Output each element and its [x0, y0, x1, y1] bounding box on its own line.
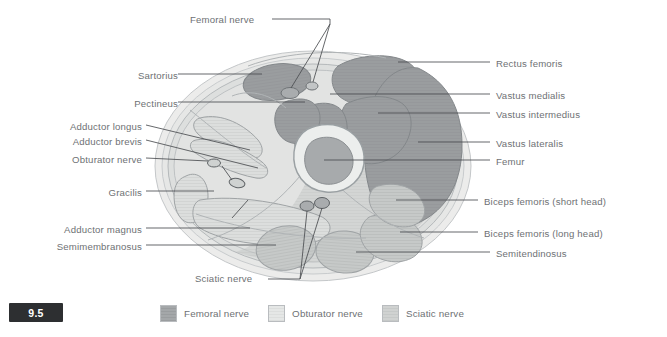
femoral-nerve-dot-2	[306, 82, 318, 90]
label-vastus-medialis-text: Vastus medialis	[496, 90, 565, 101]
label-biceps-femoris-long-head-text: Biceps femoris (long head)	[484, 228, 603, 239]
legend-item-sciatic-nerve: Sciatic nerve	[382, 305, 464, 322]
sciatic-nerve-dot-1	[300, 201, 314, 211]
legend-label-obturator-nerve: Obturator nerve	[292, 308, 363, 319]
label-sciatic-nerve: Sciatic nerve	[195, 273, 252, 284]
label-obturator-nerve-text: Obturator nerve	[72, 154, 142, 165]
legend-swatch-sciatic-nerve	[382, 305, 399, 322]
label-femur-text: Femur	[496, 156, 525, 167]
label-vastus-lateralis: Vastus lateralis	[496, 138, 563, 149]
label-pectineus-text: Pectineus	[134, 98, 178, 109]
label-semitendinosus: Semitendinosus	[496, 248, 567, 259]
figure-number-badge: 9.5	[9, 303, 63, 322]
label-biceps-femoris-short-head-text: Biceps femoris (short head)	[484, 196, 606, 207]
label-semimembranosus: Semimembranosus	[6, 241, 142, 252]
femoral-nerve-dot-1	[281, 88, 299, 99]
label-obturator-nerve: Obturator nerve	[10, 154, 142, 165]
femur-marrow	[305, 137, 353, 184]
sciatic-nerve-dot-2	[315, 198, 330, 209]
obturator-nerve-dot-1	[208, 159, 221, 167]
label-adductor-magnus-text: Adductor magnus	[64, 224, 142, 235]
femur-bone-group	[294, 125, 364, 193]
label-pectineus: Pectineus	[40, 98, 178, 109]
label-adductor-magnus: Adductor magnus	[6, 224, 142, 235]
label-femoral-nerve: Femoral nerve	[190, 14, 254, 25]
legend-item-obturator-nerve: Obturator nerve	[268, 305, 363, 322]
label-vastus-intermedius-text: Vastus intermedius	[496, 109, 580, 120]
label-vastus-lateralis-text: Vastus lateralis	[496, 138, 563, 149]
legend-swatch-obturator-nerve	[268, 305, 285, 322]
label-femoral-nerve-text: Femoral nerve	[190, 14, 254, 25]
label-semimembranosus-text: Semimembranosus	[57, 241, 142, 252]
legend-item-femoral-nerve: Femoral nerve	[160, 305, 249, 322]
legend-swatch-femoral-nerve	[160, 305, 177, 322]
figure-root: Sartorius Pectineus Adductor longus Addu…	[0, 0, 667, 337]
label-biceps-femoris-long-head: Biceps femoris (long head)	[484, 228, 603, 239]
legend-label-sciatic-nerve: Sciatic nerve	[406, 308, 464, 319]
label-vastus-intermedius: Vastus intermedius	[496, 109, 580, 120]
label-rectus-femoris: Rectus femoris	[496, 58, 563, 69]
legend-label-femoral-nerve: Femoral nerve	[184, 308, 249, 319]
label-adductor-brevis-text: Adductor brevis	[73, 136, 142, 147]
figure-number-text: 9.5	[28, 307, 44, 319]
leader-femoral-nerve-stem	[272, 19, 330, 24]
label-adductor-longus: Adductor longus	[10, 121, 142, 132]
label-sartorius-text: Sartorius	[138, 70, 178, 81]
label-sciatic-nerve-text: Sciatic nerve	[195, 273, 252, 284]
label-sartorius: Sartorius	[40, 70, 178, 81]
label-gracilis: Gracilis	[40, 187, 142, 198]
label-femur: Femur	[496, 156, 525, 167]
label-adductor-brevis: Adductor brevis	[10, 136, 142, 147]
legend: Femoral nerve Obturator nerve Sciatic ne…	[160, 303, 483, 323]
label-biceps-femoris-short-head: Biceps femoris (short head)	[484, 196, 606, 207]
label-vastus-medialis: Vastus medialis	[496, 90, 565, 101]
label-rectus-femoris-text: Rectus femoris	[496, 58, 563, 69]
label-semitendinosus-text: Semitendinosus	[496, 248, 567, 259]
label-gracilis-text: Gracilis	[109, 187, 142, 198]
label-adductor-longus-text: Adductor longus	[70, 121, 142, 132]
thigh-cross-section-diagram	[0, 0, 667, 337]
